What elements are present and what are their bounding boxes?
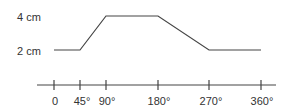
data-line: [54, 16, 261, 50]
x-tick-label-90: 90°: [99, 95, 116, 107]
x-tick-label-0: 0: [52, 95, 58, 107]
x-tick-label-270: 270°: [200, 95, 223, 107]
line-chart: [0, 0, 286, 112]
x-tick-label-45: 45°: [74, 95, 91, 107]
x-tick-label-180: 180°: [148, 95, 171, 107]
x-tick-label-360: 360°: [251, 95, 274, 107]
